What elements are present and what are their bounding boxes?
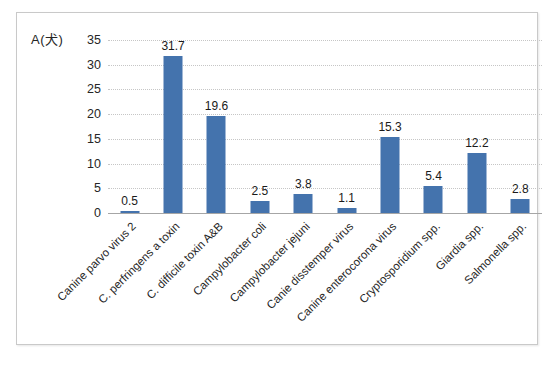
bar-slot: 5.4Cryptosporidium spp. xyxy=(412,40,455,213)
x-category-label: C. perfringens a toxin xyxy=(96,220,182,306)
bar-value-label: 12.2 xyxy=(465,136,488,150)
bar-value-label: 1.1 xyxy=(338,191,355,205)
x-category-label: Campylobacter coli xyxy=(191,220,269,298)
bar-value-label: 3.8 xyxy=(295,177,312,191)
bar-slot: 19.6C. difficile toxin A&B xyxy=(195,40,238,213)
y-tick-label: 25 xyxy=(87,82,101,96)
bar-value-label: 2.5 xyxy=(252,184,269,198)
bar[interactable] xyxy=(424,186,443,213)
bar-slot: 1.1Canie disstemper virus xyxy=(325,40,368,213)
bar[interactable] xyxy=(250,201,269,213)
y-tick-label: 20 xyxy=(87,107,101,121)
bar[interactable] xyxy=(467,153,486,213)
bar[interactable] xyxy=(294,194,313,213)
plot-area: 05101520253035 0.5Canine parvo virus 231… xyxy=(108,40,542,213)
y-tick-label: 5 xyxy=(94,181,101,195)
bar[interactable] xyxy=(511,199,530,213)
x-axis-line xyxy=(108,213,542,214)
y-tick-label: 10 xyxy=(87,157,101,171)
bar[interactable] xyxy=(337,208,356,213)
x-category-label: Canine parvo virus 2 xyxy=(55,220,138,303)
bar-slot: 15.3Canine enterocorona virus xyxy=(368,40,411,213)
bar-value-label: 19.6 xyxy=(205,99,228,113)
bar-value-label: 5.4 xyxy=(425,169,442,183)
x-category-label: C. difficile toxin A&B xyxy=(144,220,225,301)
bar-value-label: 0.5 xyxy=(121,194,138,208)
bar-value-label: 31.7 xyxy=(161,39,184,53)
bar-slot: 3.8Campylobacter jejuni xyxy=(282,40,325,213)
y-tick-label: 15 xyxy=(87,132,101,146)
chart-frame: A(犬) 05101520253035 0.5Canine parvo viru… xyxy=(16,12,538,345)
y-tick-label: 30 xyxy=(87,58,101,72)
bar-slot: 2.8Salmonella spp. xyxy=(499,40,542,213)
bar-slot: 12.2Giardia spp. xyxy=(455,40,498,213)
bar[interactable] xyxy=(381,137,400,213)
x-category-label: Canie disstemper virus xyxy=(264,220,355,311)
y-tick-label: 0 xyxy=(94,206,101,220)
bar-value-label: 2.8 xyxy=(512,182,529,196)
bar-value-label: 15.3 xyxy=(378,120,401,134)
bar[interactable] xyxy=(164,56,183,213)
bar[interactable] xyxy=(207,116,226,213)
bar[interactable] xyxy=(120,211,139,213)
bar-slot: 2.5Campylobacter coli xyxy=(238,40,281,213)
x-category-label: Campylobacter jejuni xyxy=(227,220,311,304)
bar-slot: 0.5Canine parvo virus 2 xyxy=(108,40,151,213)
x-category-label: Cryptosporidium spp. xyxy=(357,220,442,305)
y-tick-label: 35 xyxy=(87,33,101,47)
bar-slot: 31.7C. perfringens a toxin xyxy=(151,40,194,213)
chart-title: A(犬) xyxy=(31,29,63,48)
